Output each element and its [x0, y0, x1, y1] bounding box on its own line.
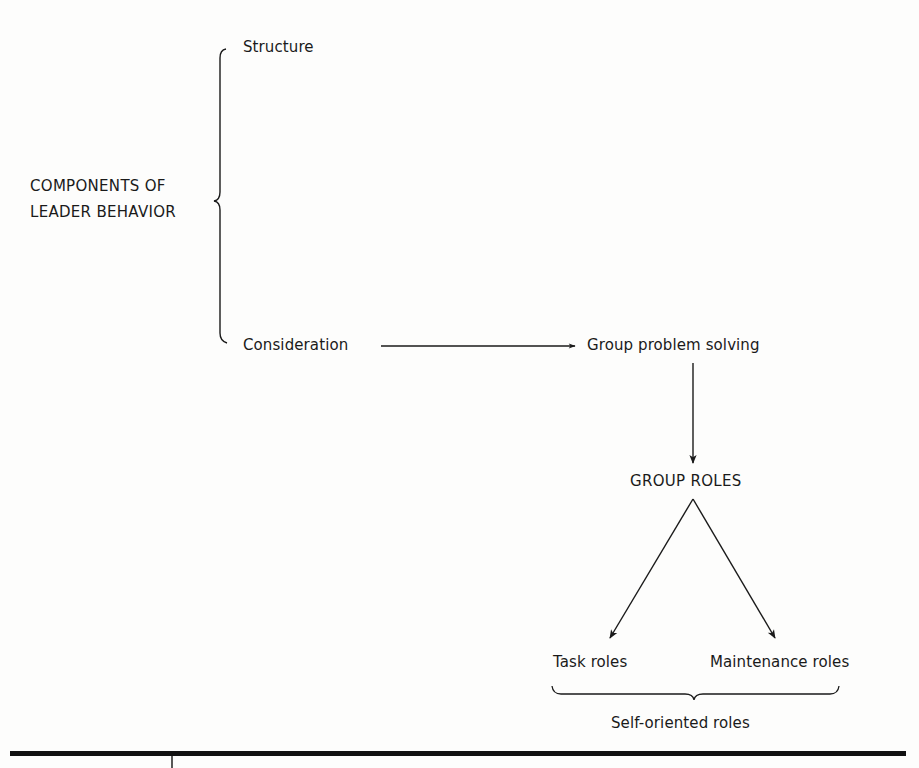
- left-brace: [214, 49, 227, 343]
- arrow-group-roles-to-task-roles: [610, 499, 693, 638]
- root-label-line1: COMPONENTS OF: [30, 177, 166, 195]
- component-consideration: Consideration: [243, 336, 348, 354]
- root-label-line2: LEADER BEHAVIOR: [30, 203, 176, 221]
- bottom-brace: [552, 686, 839, 700]
- arrow-group-roles-to-maintenance-roles: [693, 499, 775, 638]
- component-structure: Structure: [243, 38, 314, 56]
- role-task: Task roles: [553, 653, 627, 671]
- bottom-rule: [10, 751, 906, 756]
- process-group-problem-solving: Group problem solving: [587, 336, 760, 354]
- group-roles-label: GROUP ROLES: [630, 472, 742, 490]
- role-maintenance: Maintenance roles: [710, 653, 849, 671]
- self-oriented-roles-label: Self-oriented roles: [611, 714, 750, 732]
